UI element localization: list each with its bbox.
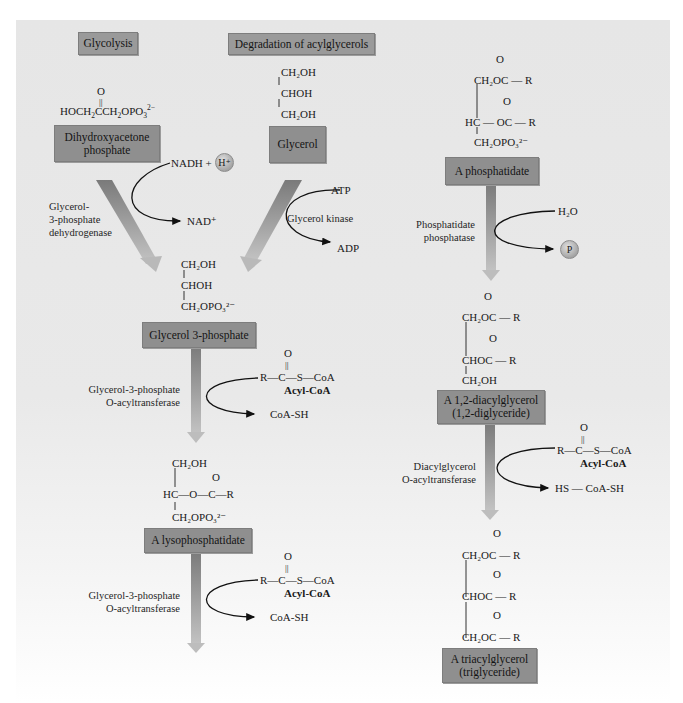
phosphatidate-box: A phosphatidate [445,157,539,185]
lyso-formula-line2: HC—O—C—R [163,488,234,501]
dag-o1: O [481,290,495,303]
dhap-box: Dihydroxyacetone phosphate [54,125,160,162]
dag-to-tag-arrow [481,422,499,520]
lyso-formula-line3: CH₂OPO₃²⁻ [172,511,226,524]
phosphatidate-phosphatase-label: Phosphatidate phosphatase [390,218,475,244]
acylcoa-curve-arrow-3 [497,448,555,488]
dag-o2: O [486,332,500,345]
lyso-to-phosphatidate-arrow [187,551,205,653]
dag-formula-line3: CH₂OH [462,374,497,387]
h2o-curve-arrow [495,211,555,249]
lysophosphatidate-box: A lysophosphatidate [144,528,252,553]
tag-o1: O [490,527,504,540]
tag-label-line1: A triacylglycerol [451,653,529,666]
dhap-label-line1: Dihydroxyacetone [65,131,150,144]
nadh-label: NADH + [171,157,212,170]
acylcoa-2-label: Acyl-CoA [284,587,330,600]
diacylglycerol-box: A 1,2-diacylglycerol (1,2-diglyceride) [437,390,545,424]
coash-1-label: CoA-SH [270,408,309,421]
nad-plus-label: NAD⁺ [187,215,217,228]
glycolysis-header: Glycolysis [78,32,138,55]
g3p-dehydrogenase-label: Glycerol- 3-phosphate dehydrogenase [49,200,112,239]
coash-2-label: CoA-SH [270,611,309,624]
g3p-to-lyso-arrow [187,345,205,443]
lyso-formula-o: O [209,471,223,484]
tag-o3: O [490,609,504,622]
g3p-formula-line2: CHOH [181,279,212,292]
glycerol-formula-line2: CHOH [281,87,312,100]
phosphatidate-o1: O [493,53,507,66]
tag-formula-line2: CHOC — R [462,590,516,603]
acylcoa-1-label: Acyl-CoA [284,384,330,397]
degradation-header: Degradation of acylglycerols [228,33,375,55]
dag-acyltransferase-label: Diacylglycerol O-acyltransferase [380,460,476,486]
acylcoa-3-label: Acyl-CoA [580,457,626,470]
g3p-formula-line1: CH₂OH [181,258,216,271]
phosphate-circle: P [560,240,579,259]
phosphatidate-formula-line2: HC — OC — R [465,116,536,129]
acylcoa-1-formula: R—C—S—CoA [260,371,335,384]
h2o-label: H₂O [558,205,578,218]
phosphatidate-formula-line1: CH₂OC — R [474,74,532,87]
tag-formula-line1: CH₂OC — R [462,549,520,562]
nadh-curve-arrow [132,163,180,221]
phosphatidate-formula-line3: CH₂OPO₃²⁻ [474,136,528,149]
tag-o2: O [490,568,504,581]
glycerol-box: Glycerol [269,126,326,163]
acylcoa-curve-arrow-2 [206,580,258,617]
h-plus-circle: H⁺ [215,153,234,172]
dag-formula-line1: CH₂OC — R [462,311,520,324]
g3p-formula-line3: CH₂OPO₃²⁻ [181,300,235,313]
phosphatidate-to-dag-arrow [482,183,500,281]
g3p-box: Glycerol 3-phosphate [142,322,256,348]
hs-coash-label: HS — CoA-SH [555,482,624,495]
glycerol-kinase-label: Glycerol kinase [287,212,353,225]
triacylglycerol-box: A triacylglycerol (triglyceride) [442,648,537,683]
lyso-formula-line1: CH₂OH [172,457,207,470]
acylcoa-3-formula: R—C—S—CoA [557,444,632,457]
acylcoa-curve-arrow-1 [206,378,258,414]
g3p-acyltransferase-1-label: Glycerol-3-phosphate O-acyltransferase [60,383,180,409]
atp-label: ATP [331,184,351,197]
glycerol-to-g3p-arrow [240,180,302,272]
glycerol-formula-line1: CH₂OH [281,66,316,79]
tag-label-line2: (triglyceride) [459,666,520,679]
dag-label-line2: (1,2-diglyceride) [452,407,530,420]
acylcoa-2-formula: R—C—S—CoA [260,574,335,587]
dhap-label-line2: phosphate [84,144,131,157]
g3p-acyltransferase-2-label: Glycerol-3-phosphate O-acyltransferase [60,589,180,615]
dag-formula-line2: CHOC — R [462,354,516,367]
dag-label-line1: A 1,2-diacylglycerol [444,394,539,407]
tag-formula-line3: CH₂OC — R [462,631,520,644]
adp-label: ADP [337,242,359,255]
dhap-formula: HOCH2CCH2OPO32− [60,105,155,118]
glycerol-formula-line3: CH₂OH [281,108,316,121]
phosphatidate-o2: O [500,95,514,108]
